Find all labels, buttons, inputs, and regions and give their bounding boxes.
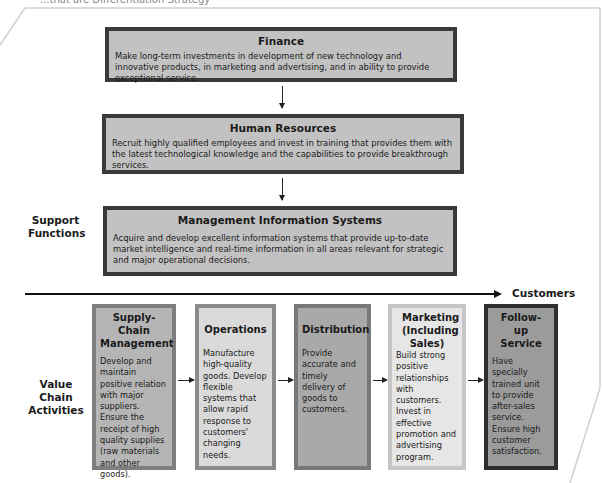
mis-box: Management Information Systems Acquire a… [103, 206, 457, 276]
supply-chain-title: Supply-Chain Management [100, 311, 168, 350]
mis-text: Acquire and develop excellent informatio… [113, 230, 447, 266]
finance-title: Finance [115, 35, 447, 47]
arrow-down-icon [282, 86, 283, 108]
arrow-right-icon [278, 380, 293, 381]
arrow-right-icon [178, 380, 194, 381]
supply-chain-text: Develop and maintain positive relation w… [100, 356, 168, 480]
distribution-box: Distribution Provide accurate and timely… [294, 304, 371, 470]
arrow-right-icon [468, 380, 483, 381]
value-chain-label: Value Chain Activities [24, 378, 88, 417]
finance-text: Make long-term investments in developmen… [115, 51, 447, 84]
follow-up-service-title: Follow-up Service [492, 311, 550, 350]
operations-title: Operations [203, 323, 268, 336]
distribution-title: Distribution [302, 323, 363, 336]
follow-up-service-text: Have specially trained unit to provide a… [492, 356, 550, 458]
arrow-down-icon [282, 178, 283, 200]
arrow-right-icon [373, 380, 387, 381]
flow-arrow-icon [25, 293, 495, 295]
follow-up-service-box: Follow-up Service Have specially trained… [484, 304, 558, 470]
marketing-box: Marketing (Including Sales) Build strong… [388, 304, 466, 470]
finance-box: Finance Make long-term investments in de… [105, 27, 457, 82]
support-functions-label: Support Functions [28, 214, 83, 240]
distribution-text: Provide accurate and timely delivery of … [302, 348, 363, 416]
human-resources-title: Human Resources [112, 122, 454, 134]
human-resources-box: Human Resources Recruit highly qualified… [102, 114, 464, 174]
human-resources-text: Recruit highly qualified employees and i… [112, 138, 454, 171]
supply-chain-box: Supply-Chain Management Develop and main… [92, 304, 176, 470]
marketing-text: Build strong positive relationships with… [396, 350, 458, 463]
operations-box: Operations Manufacture high-quality good… [195, 304, 276, 470]
customers-label: Customers [512, 287, 575, 299]
marketing-title: Marketing (Including Sales) [396, 311, 458, 350]
mis-title: Management Information Systems [113, 214, 447, 226]
operations-text: Manufacture high-quality goods. Develop … [203, 348, 268, 461]
